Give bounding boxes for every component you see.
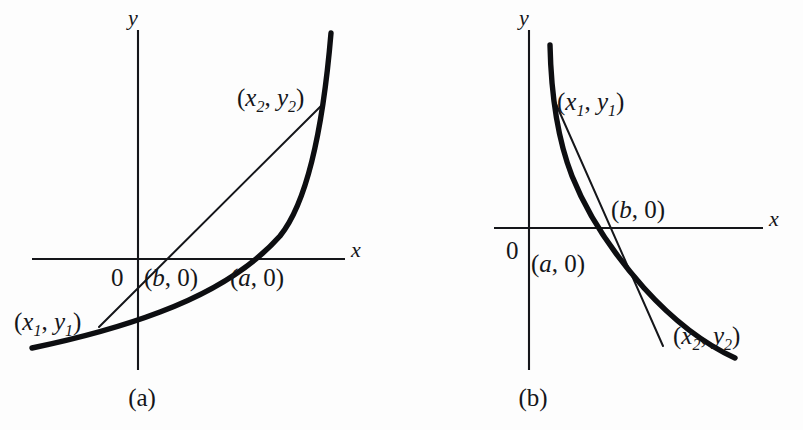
panel-a-function-curve xyxy=(32,33,331,348)
panel-a-y-axis-label: y xyxy=(126,5,138,30)
panel-b-y-axis-label: y xyxy=(517,5,529,30)
panel-a-origin-label: 0 xyxy=(111,264,124,291)
panel-b-secant-line xyxy=(556,104,663,346)
panel-b-point-a-label: (a, 0) xyxy=(531,250,585,278)
panel-a-secant-line xyxy=(99,104,323,327)
figure-container: y x 0 (b, 0) (a, 0) (x1, y1) (x2, y2) (a… xyxy=(0,0,803,430)
panel-a-point-x2y2-label: (x2, y2) xyxy=(237,84,304,115)
panel-b-point-x2y2-label: (x2, y2) xyxy=(673,322,740,353)
panel-b-point-x1y1-label: (x1, y1) xyxy=(557,88,624,119)
panel-a: y x 0 (b, 0) (a, 0) (x1, y1) (x2, y2) (a… xyxy=(0,0,400,430)
panel-a-x-axis-label: x xyxy=(350,237,361,262)
panel-a-caption: (a) xyxy=(128,384,156,412)
panel-b-origin-label: 0 xyxy=(506,237,519,264)
panel-b: y x 0 (a, 0) (b, 0) (x1, y1) (x2, y2) (b… xyxy=(400,0,803,430)
panel-a-point-b-label: (b, 0) xyxy=(144,264,198,292)
panel-b-x-axis-label: x xyxy=(768,206,779,231)
panel-a-point-x1y1-label: (x1, y1) xyxy=(14,308,81,339)
panel-b-point-b-label: (b, 0) xyxy=(611,196,665,224)
panel-b-caption: (b) xyxy=(518,384,547,412)
panel-a-point-a-label: (a, 0) xyxy=(230,264,284,292)
